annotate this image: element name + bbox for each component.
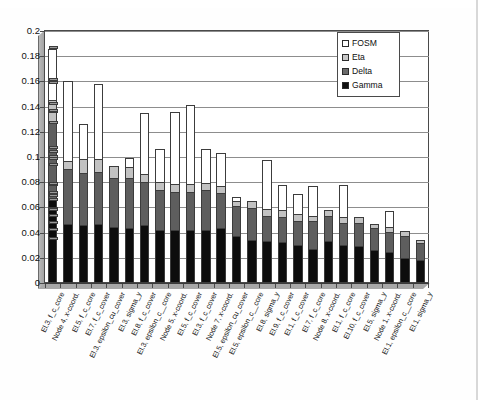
bar-segment-fosm xyxy=(279,186,286,211)
bar-segment-eta xyxy=(187,185,194,193)
bar-segment-gamma xyxy=(401,259,408,282)
bar-top-cap xyxy=(49,163,58,166)
legend-item[interactable]: Eta xyxy=(342,50,395,64)
bar-segment-fosm xyxy=(95,85,102,160)
stacked-bar[interactable] xyxy=(247,201,256,283)
stacked-bar[interactable] xyxy=(79,124,88,283)
bar-segment-gamma xyxy=(279,243,286,282)
legend-swatch-fosm xyxy=(342,40,349,47)
x-axis-tick-mark xyxy=(76,284,77,288)
bar-slot xyxy=(60,31,75,283)
bar-segment-gamma xyxy=(202,231,209,282)
bar-segment-delta xyxy=(263,217,270,242)
x-axis-tick-mark xyxy=(137,284,138,288)
stacked-bar[interactable] xyxy=(216,153,225,283)
bar-segment-gamma xyxy=(126,229,133,282)
x-axis-tick-mark xyxy=(305,284,306,288)
bar-segment-gamma xyxy=(355,247,362,283)
stacked-bar[interactable] xyxy=(125,158,134,283)
bar-segment-fosm xyxy=(80,125,87,160)
stacked-bar[interactable] xyxy=(416,240,425,283)
bar-top-cap xyxy=(49,208,58,211)
x-axis-tick-mark xyxy=(382,284,383,288)
bar-segment-eta xyxy=(126,168,133,180)
bar-segment-fosm xyxy=(340,186,347,218)
stacked-bar[interactable] xyxy=(339,185,348,283)
legend-item[interactable]: Delta xyxy=(342,64,395,78)
stacked-bar[interactable] xyxy=(308,186,317,283)
stacked-bar[interactable] xyxy=(109,166,118,283)
x-axis-tick-mark xyxy=(367,284,368,288)
bar-segment-delta xyxy=(309,222,316,249)
x-axis-tick-mark xyxy=(229,284,230,288)
bar-slot xyxy=(244,31,259,283)
bar-slot xyxy=(290,31,305,283)
bar-segment-gamma xyxy=(294,246,301,282)
stacked-bar[interactable] xyxy=(400,231,409,283)
bar-segment-gamma xyxy=(217,229,224,282)
stacked-bar[interactable] xyxy=(201,149,210,283)
stacked-bar[interactable] xyxy=(170,112,179,283)
bar-slot xyxy=(198,31,213,283)
chart-legend: FOSMEtaDeltaGamma xyxy=(337,32,400,97)
bar-segment-delta xyxy=(156,191,163,231)
bar-top-cap xyxy=(49,102,58,105)
bar-segment-delta xyxy=(95,173,102,226)
bar-segment-gamma xyxy=(171,231,178,282)
stacked-bar[interactable] xyxy=(278,185,287,283)
y-axis-tick-label: 0.14 xyxy=(6,102,40,111)
bar-segment-eta xyxy=(80,160,87,173)
stacked-bar[interactable] xyxy=(140,113,149,283)
x-axis-tick-mark xyxy=(214,284,215,288)
bar-segment-gamma xyxy=(340,246,347,282)
stacked-bar[interactable] xyxy=(354,217,363,283)
bar-slot xyxy=(122,31,137,283)
bar-segment-fosm xyxy=(386,212,393,228)
y-axis-tick-label: 0.12 xyxy=(6,127,40,136)
bar-top-cap xyxy=(49,146,58,149)
stacked-bar[interactable] xyxy=(293,194,302,283)
bar-top-cap xyxy=(49,191,58,194)
bar-segment-delta xyxy=(386,233,393,253)
bar-top-cap xyxy=(49,182,58,185)
legend-label: Eta xyxy=(352,53,365,62)
bar-segment-delta xyxy=(171,193,178,231)
bar-segment-eta xyxy=(156,183,163,191)
scan-top-margin xyxy=(0,0,478,8)
x-axis-tick-mark xyxy=(244,284,245,288)
bar-segment-fosm xyxy=(141,114,148,175)
bar-segment-gamma xyxy=(64,225,71,282)
stacked-bar[interactable] xyxy=(186,105,195,283)
bar-segment-fosm xyxy=(156,150,163,183)
stacked-bar-chart: 00.020.040.060.080.10.120.140.160.180.2 … xyxy=(0,8,474,400)
stacked-bar[interactable] xyxy=(262,160,271,283)
stacked-bar[interactable] xyxy=(94,84,103,283)
x-axis-tick-mark xyxy=(60,284,61,288)
stacked-bar[interactable] xyxy=(63,81,72,283)
bar-segment-gamma xyxy=(371,251,378,282)
bar-slot xyxy=(183,31,198,283)
stacked-bar[interactable] xyxy=(155,149,164,283)
legend-label: FOSM xyxy=(352,39,377,48)
bar-segment-eta xyxy=(294,215,301,222)
bar-segment-fosm xyxy=(187,106,194,184)
bar-top-cap xyxy=(49,81,58,84)
legend-item[interactable]: FOSM xyxy=(342,36,395,50)
bar-segment-fosm xyxy=(49,50,56,102)
y-axis-tick-label: 0.2 xyxy=(6,26,40,35)
stacked-bar[interactable] xyxy=(324,210,333,283)
bar-segment-eta xyxy=(202,184,209,191)
stacked-bar[interactable] xyxy=(385,211,394,283)
stacked-bar[interactable] xyxy=(232,197,241,283)
bar-top-cap xyxy=(49,221,58,224)
legend-item[interactable]: Gamma xyxy=(342,78,395,92)
bar-top-cap xyxy=(49,228,58,231)
y-axis-tick-label: 0.18 xyxy=(6,51,40,60)
bar-segment-eta xyxy=(171,185,178,193)
bar-top-cap xyxy=(49,194,58,197)
stacked-bar[interactable] xyxy=(370,224,379,283)
bar-segment-delta xyxy=(141,183,148,226)
bar-slot xyxy=(259,31,274,283)
bar-segment-delta xyxy=(217,194,224,229)
y-axis-tick-label: 0 xyxy=(6,278,40,287)
